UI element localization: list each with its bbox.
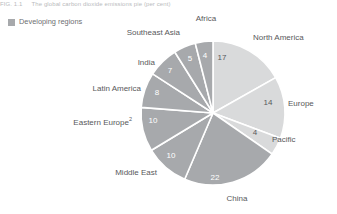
- pie-slice-value: 10: [167, 152, 176, 160]
- pie-slice-value: 17: [218, 54, 227, 62]
- pie-chart: 17North America14Europe4Pacific22China10…: [0, 0, 337, 214]
- pie-slice-value: 10: [149, 117, 158, 125]
- pie-slice-label: China: [227, 194, 248, 203]
- pie-slice-value: 14: [264, 99, 273, 107]
- pie-slice-label: Southeast Asia: [127, 28, 180, 37]
- pie-slice-value: 5: [188, 55, 192, 63]
- pie-slice-label: Pacific: [272, 135, 296, 144]
- pie-slice-value: 7: [168, 67, 172, 75]
- pie-slice-label: Middle East: [115, 168, 157, 177]
- pie-slice-label: Europe: [288, 99, 314, 108]
- pie-slice-group: [141, 41, 285, 185]
- footnote-marker: 2: [129, 116, 132, 122]
- pie-slice-label: Eastern Europe2: [73, 118, 132, 127]
- pie-slice-label: India: [138, 58, 155, 67]
- pie-slice-label: Latin America: [93, 84, 141, 93]
- pie-slice-label: Africa: [196, 14, 216, 23]
- pie-slice-label: North America: [253, 33, 304, 42]
- pie-slice-value: 4: [203, 52, 207, 60]
- pie-slice-value: 4: [253, 129, 257, 137]
- pie-slice-value: 8: [155, 89, 159, 97]
- pie-slice-value: 22: [211, 174, 220, 182]
